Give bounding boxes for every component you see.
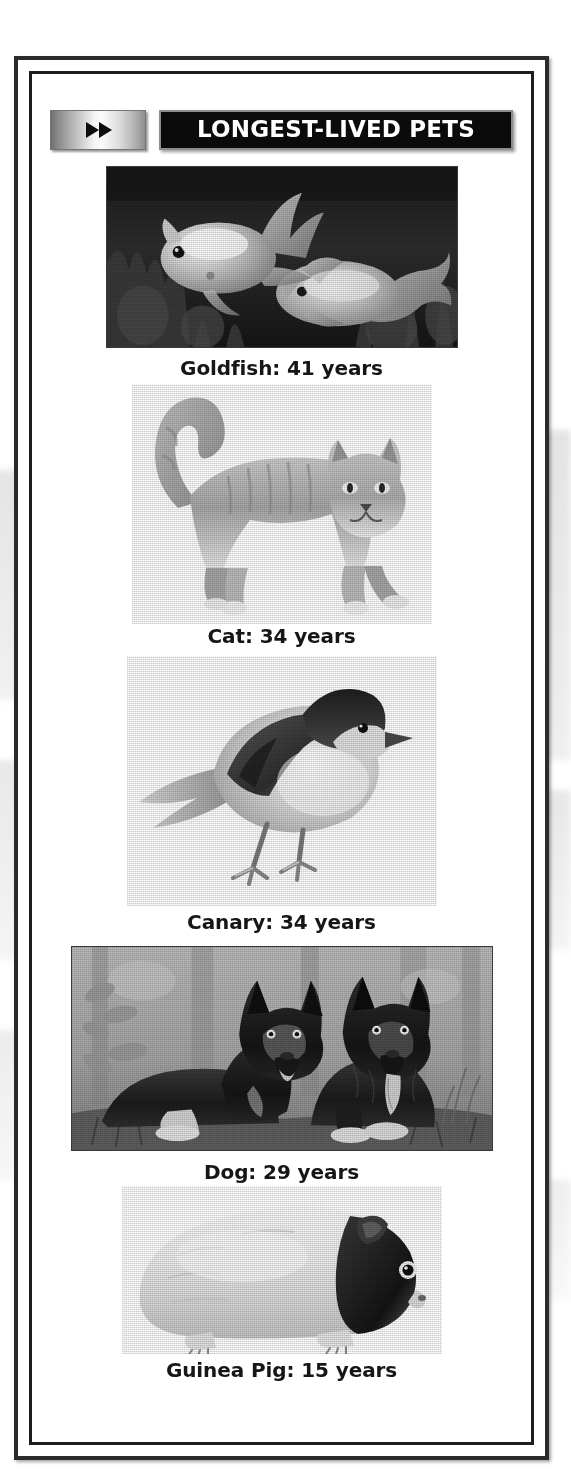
pet-entry-guinea-pig: Guinea Pig: 15 years <box>32 1186 531 1380</box>
next-page-button[interactable] <box>50 110 146 150</box>
pet-list: Goldfish: 41 years <box>32 166 531 1380</box>
pet-entry-goldfish: Goldfish: 41 years <box>32 166 531 378</box>
outer-frame-border: LONGEST-LIVED PETS <box>14 56 549 1460</box>
pet-entry-cat: Cat: 34 years <box>32 384 531 646</box>
pet-caption-cat: Cat: 34 years <box>32 626 531 646</box>
pet-entry-dog: Dog: 29 years <box>32 946 531 1182</box>
pet-entry-canary: Canary: 34 years <box>32 656 531 932</box>
title-bar: LONGEST-LIVED PETS <box>159 110 513 150</box>
inner-frame-border: LONGEST-LIVED PETS <box>29 71 534 1445</box>
dogs-photo <box>71 946 493 1151</box>
cat-cutout <box>132 384 432 624</box>
fast-forward-icon <box>81 120 115 140</box>
page-title: LONGEST-LIVED PETS <box>197 118 475 142</box>
pet-caption-canary: Canary: 34 years <box>32 912 531 932</box>
canary-cutout <box>127 656 437 906</box>
pet-caption-dog: Dog: 29 years <box>32 1162 531 1182</box>
goldfish-photo <box>106 166 458 348</box>
pet-caption-goldfish: Goldfish: 41 years <box>32 358 531 378</box>
header: LONGEST-LIVED PETS <box>50 110 513 150</box>
guinea-pig-cutout <box>122 1186 442 1354</box>
pet-caption-guinea-pig: Guinea Pig: 15 years <box>32 1360 531 1380</box>
